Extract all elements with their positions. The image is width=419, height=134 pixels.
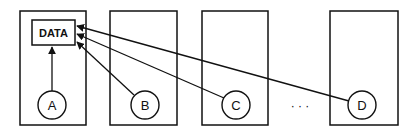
data-block: DATA: [32, 20, 75, 45]
node-d-label: D: [357, 98, 366, 113]
node-d: D: [348, 91, 376, 119]
node-b-label: B: [141, 98, 150, 113]
node-a: A: [38, 91, 66, 119]
node-b: B: [131, 91, 159, 119]
ellipsis: · · ·: [291, 99, 310, 113]
node-c-label: C: [231, 98, 240, 113]
data-label: DATA: [39, 27, 68, 39]
edge-d-to-data: [77, 26, 349, 101]
node-c: C: [222, 91, 250, 119]
node-a-label: A: [48, 98, 57, 113]
shared-data-diagram: DATA A B C D · · ·: [0, 0, 419, 134]
